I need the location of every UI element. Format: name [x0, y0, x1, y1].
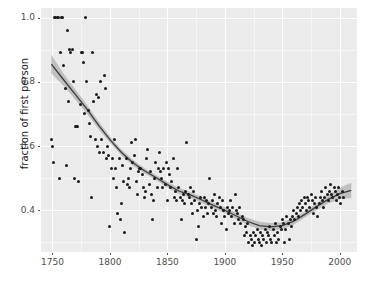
- data-point: [222, 209, 225, 212]
- data-point: [122, 180, 125, 183]
- data-point: [246, 222, 249, 225]
- data-point: [176, 167, 179, 170]
- data-point: [106, 145, 109, 148]
- data-point: [250, 238, 253, 241]
- data-point: [69, 51, 72, 54]
- data-point: [230, 215, 233, 218]
- data-point: [88, 122, 91, 125]
- data-point: [164, 183, 167, 186]
- data-point: [137, 170, 140, 173]
- data-point: [327, 199, 330, 202]
- data-point: [100, 138, 103, 141]
- data-point: [145, 157, 148, 160]
- data-point: [216, 202, 219, 205]
- data-point: [300, 199, 303, 202]
- data-point: [98, 151, 101, 154]
- plot-panel: [41, 8, 357, 252]
- data-point: [204, 206, 207, 209]
- y-tick-mark: [38, 210, 40, 211]
- data-point: [227, 212, 230, 215]
- data-point: [77, 180, 80, 183]
- x-tick-label: 1850: [147, 258, 187, 267]
- data-point: [275, 241, 278, 244]
- data-point: [280, 228, 283, 231]
- chart-figure: 0.40.60.81.0 175018001850190019502000 fr…: [0, 0, 371, 284]
- y-tick-mark: [38, 146, 40, 147]
- data-point: [185, 141, 188, 144]
- x-tick-label: 2000: [320, 258, 360, 267]
- data-point: [268, 225, 271, 228]
- data-point: [133, 154, 136, 157]
- data-point: [196, 209, 199, 212]
- data-point: [89, 135, 92, 138]
- data-point: [326, 193, 329, 196]
- data-point: [83, 112, 86, 115]
- data-point: [333, 186, 336, 189]
- data-point: [285, 215, 288, 218]
- data-point: [144, 190, 147, 193]
- data-point: [125, 157, 128, 160]
- data-point: [188, 196, 191, 199]
- data-point: [272, 228, 275, 231]
- data-point: [299, 209, 302, 212]
- data-point: [151, 218, 154, 221]
- data-point: [184, 190, 187, 193]
- data-point: [112, 177, 115, 180]
- data-point: [228, 209, 231, 212]
- data-point: [261, 234, 264, 237]
- data-point: [200, 206, 203, 209]
- data-point: [208, 177, 211, 180]
- data-point: [287, 222, 290, 225]
- data-point: [182, 193, 185, 196]
- data-point: [107, 154, 110, 157]
- data-point: [338, 196, 341, 199]
- data-point: [118, 157, 121, 160]
- data-point: [197, 225, 200, 228]
- data-point: [120, 202, 123, 205]
- data-point: [192, 190, 195, 193]
- data-point: [322, 206, 325, 209]
- data-point: [238, 206, 241, 209]
- data-point: [65, 164, 68, 167]
- y-tick-label: 0.4: [5, 206, 35, 215]
- data-point: [102, 151, 105, 154]
- data-point: [301, 206, 304, 209]
- data-point: [165, 161, 168, 164]
- data-point: [274, 222, 277, 225]
- data-point: [206, 212, 209, 215]
- data-point: [229, 199, 232, 202]
- data-point: [236, 212, 239, 215]
- data-point: [320, 190, 323, 193]
- data-point: [231, 206, 234, 209]
- data-point: [314, 196, 317, 199]
- data-point: [62, 64, 65, 67]
- data-point: [239, 222, 242, 225]
- data-point: [94, 138, 97, 141]
- data-point: [318, 202, 321, 205]
- data-point: [108, 225, 111, 228]
- data-point: [81, 51, 84, 54]
- data-point: [312, 212, 315, 215]
- data-point: [97, 96, 100, 99]
- data-point: [307, 199, 310, 202]
- data-point: [276, 231, 279, 234]
- data-point: [160, 177, 163, 180]
- data-point: [244, 225, 247, 228]
- data-point: [153, 177, 156, 180]
- data-point: [146, 148, 149, 151]
- data-point: [110, 167, 113, 170]
- data-point: [174, 190, 177, 193]
- y-axis-title: fraction of first person: [19, 34, 30, 194]
- data-point: [218, 196, 221, 199]
- data-point: [193, 199, 196, 202]
- data-point: [154, 161, 157, 164]
- data-point: [310, 193, 313, 196]
- data-point: [91, 51, 94, 54]
- data-point: [123, 231, 126, 234]
- data-point: [270, 241, 273, 244]
- data-point: [321, 199, 324, 202]
- y-tick-mark: [38, 18, 40, 19]
- data-point: [183, 202, 186, 205]
- data-point: [143, 196, 146, 199]
- data-point: [142, 186, 145, 189]
